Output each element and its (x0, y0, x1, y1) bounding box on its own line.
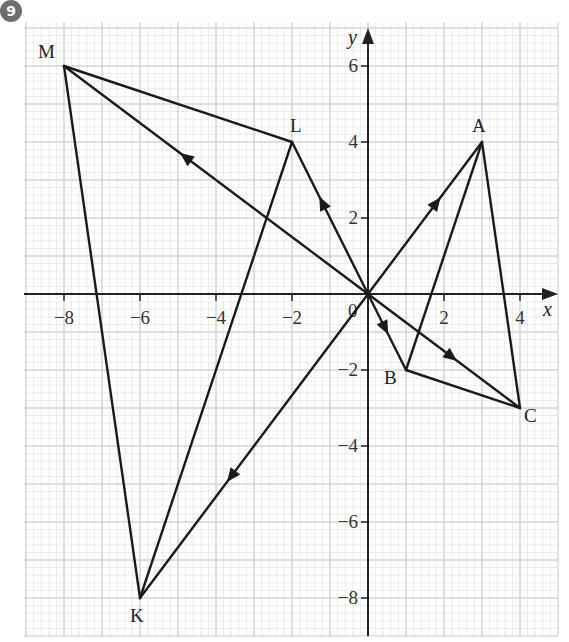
y-tick-label: 2 (349, 207, 359, 228)
arrowhead-icon (180, 153, 195, 166)
arrowhead-icon (427, 197, 440, 212)
x-tick-label: −4 (206, 307, 227, 328)
segment-BC (406, 370, 520, 408)
point-label-M: M (38, 41, 55, 62)
point-label-K: K (130, 605, 144, 626)
x-tick-label: −6 (130, 307, 150, 328)
x-tick-label: 4 (515, 307, 525, 328)
labels: MLABCK (38, 41, 537, 626)
x-axis-label: x (542, 298, 552, 320)
y-axis-label: y (346, 26, 357, 49)
point-label-L: L (290, 115, 302, 136)
y-tick-label: −6 (338, 511, 358, 532)
y-tick-label: 6 (349, 55, 359, 76)
x-tick-label: 2 (439, 307, 449, 328)
arrowhead-icon (227, 467, 240, 482)
point-label-B: B (384, 367, 397, 388)
coordinate-plot: xy0−8−6−4−224642−2−4−6−8 MLABCK (0, 0, 569, 642)
segment-AC (482, 142, 520, 408)
point-label-A: A (472, 115, 486, 136)
x-tick-label: −8 (54, 307, 74, 328)
arrowhead-icon (442, 348, 457, 361)
point-label-C: C (524, 405, 537, 426)
y-axis-arrow-icon (362, 28, 374, 44)
y-tick-label: −2 (338, 359, 358, 380)
x-tick-label: −2 (282, 307, 302, 328)
y-tick-label: −8 (338, 587, 358, 608)
y-tick-label: 4 (349, 131, 359, 152)
y-tick-label: −4 (338, 435, 359, 456)
